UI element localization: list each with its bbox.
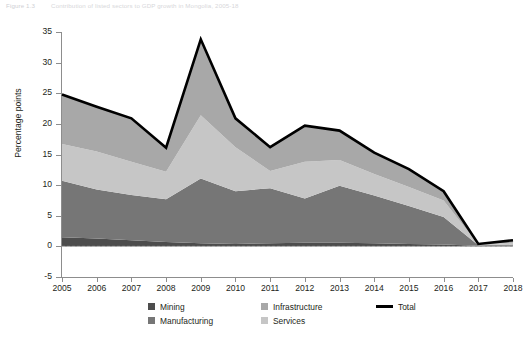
legend-swatch-infrastructure xyxy=(261,303,268,310)
legend-item-infrastructure[interactable]: Infrastructure xyxy=(261,300,322,313)
legend-item-services[interactable]: Services xyxy=(261,314,305,327)
legend-row-2: Manufacturing Services xyxy=(148,314,478,327)
legend-swatch-services xyxy=(261,317,268,324)
legend-label-total: Total xyxy=(398,302,416,312)
chart-plot xyxy=(0,0,529,344)
legend-item-manufacturing[interactable]: Manufacturing xyxy=(148,314,213,327)
legend-swatch-manufacturing xyxy=(148,317,155,324)
legend-label-mining: Mining xyxy=(160,302,185,312)
legend-item-mining[interactable]: Mining xyxy=(148,300,185,313)
legend-label-services: Services xyxy=(273,316,305,326)
chart-figure: Figure 1.3Contribution of listed sectors… xyxy=(0,0,529,344)
chart-legend: Mining Infrastructure Total Manufacturin… xyxy=(148,300,478,330)
legend-item-total[interactable]: Total xyxy=(376,300,416,313)
legend-label-infrastructure: Infrastructure xyxy=(273,302,322,312)
legend-label-manufacturing: Manufacturing xyxy=(160,316,213,326)
legend-swatch-mining xyxy=(148,303,155,310)
legend-swatch-total xyxy=(376,305,393,308)
legend-row-1: Mining Infrastructure Total xyxy=(148,300,478,313)
